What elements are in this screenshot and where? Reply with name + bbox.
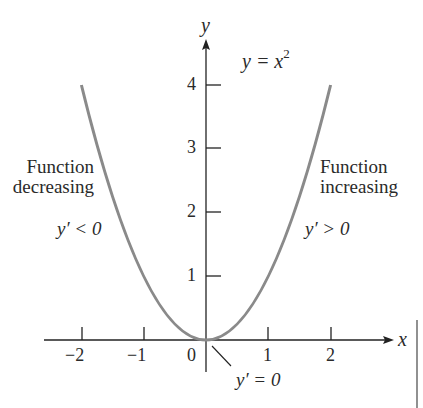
left-annotation-line2: decreasing [6,177,94,197]
vertex-derivative-label: y′ = 0 [236,369,280,391]
y-tick-label: 2 [187,201,196,222]
left-annotation-line1: Function [22,157,94,177]
x-axis-label: x [398,328,407,351]
right-derivative-label: y′ > 0 [305,218,349,240]
x-tick-label: 1 [263,345,272,366]
y-tick-label: 3 [187,137,196,158]
y-tick-label: 4 [187,74,196,95]
x-tick-label: 2 [326,345,335,366]
vertex-pointer-line [212,346,231,366]
right-annotation-line2: increasing [320,177,398,197]
parabola-figure [0,0,423,408]
x-tick-label: 0 [187,345,196,366]
y-ticks [206,85,221,276]
left-derivative-label: y′ < 0 [57,218,101,240]
x-tick-label: −1 [127,345,146,366]
equation-label: y = x2 [242,48,290,73]
x-tick-label: −2 [65,345,84,366]
equation-exponent: 2 [283,46,290,61]
y-tick-label: 1 [187,265,196,286]
right-annotation-line1: Function [320,157,388,177]
y-axis-label: y [201,14,210,37]
equation-text: y = x [242,50,283,72]
